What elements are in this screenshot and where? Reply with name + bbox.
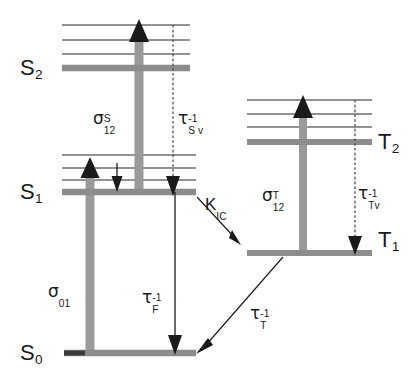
level-label-s1-base: S [20, 179, 35, 204]
taut-sup: -1 [260, 309, 269, 319]
level-label-s2: S2 [20, 57, 42, 79]
level-label-s0: S0 [20, 342, 42, 364]
level-label-s1: S1 [20, 181, 42, 203]
level-label-t1-base: T [378, 227, 391, 252]
transition-tau-f [168, 192, 182, 355]
tausv-base: τ [178, 108, 188, 128]
sigma12s-sub: 12 [104, 126, 115, 136]
sigma12t-sub: 12 [273, 203, 284, 213]
jablonski-diagram: S2 S1 S0 T2 T1 σ01 σS12 τ-1S v τ-1F KIC … [0, 0, 414, 377]
sigma12t-sup: T [273, 191, 279, 201]
tauf-sub: F [152, 305, 158, 315]
kic-sub: IC [216, 212, 226, 222]
transition-label-tau-t: τ-1T [250, 305, 260, 322]
tauf-base: τ [142, 287, 152, 307]
transition-label-sigma12-singlet: σS12 [93, 110, 104, 127]
level-label-t2: T2 [378, 131, 399, 153]
tausv-sub: S v [188, 126, 203, 136]
tautv-sup: -1 [368, 189, 377, 199]
level-label-s0-sub: 0 [35, 352, 43, 367]
diagram-canvas [0, 0, 414, 377]
vibrational-sublevels-s2 [62, 25, 190, 54]
transition-sigma12-triplet [293, 95, 313, 254]
transition-tau-t [196, 257, 283, 354]
tautv-base: τ [358, 183, 368, 203]
level-label-t2-base: T [378, 129, 391, 154]
tautv-sub: Tv [368, 201, 379, 211]
tausv-sup: -1 [188, 114, 197, 124]
sigma12s-sup: S [104, 114, 111, 124]
level-label-t1-sub: 1 [392, 239, 400, 254]
level-label-s0-base: S [20, 340, 35, 365]
transition-sigma12-singlet [129, 19, 149, 193]
sigma12s-base: σ [93, 108, 104, 128]
level-label-t1: T1 [378, 229, 399, 251]
sigma12t-base: σ [262, 185, 273, 205]
sigma01-sub: 01 [59, 299, 70, 309]
transition-label-sigma01: σ01 [48, 283, 59, 300]
sigma01-base: σ [48, 281, 59, 301]
taut-base: τ [250, 303, 260, 323]
transition-tau-tv [348, 100, 362, 255]
transition-sigma01 [81, 157, 100, 354]
transition-label-tau-tv: τ-1Tv [358, 185, 368, 202]
transition-label-tau-sv: τ-1S v [178, 110, 188, 127]
level-label-s1-sub: 1 [35, 191, 43, 206]
transition-label-sigma12-triplet: σT12 [262, 187, 273, 204]
kic-base: K [205, 195, 216, 214]
taut-sub: T [260, 321, 266, 331]
tauf-sup: -1 [152, 293, 161, 303]
level-label-s2-sub: 2 [35, 67, 43, 82]
transition-label-k-ic: KIC [205, 196, 216, 213]
level-label-s2-base: S [20, 55, 35, 80]
transition-label-tau-f: τ-1F [142, 289, 152, 306]
level-label-t2-sub: 2 [392, 141, 400, 156]
